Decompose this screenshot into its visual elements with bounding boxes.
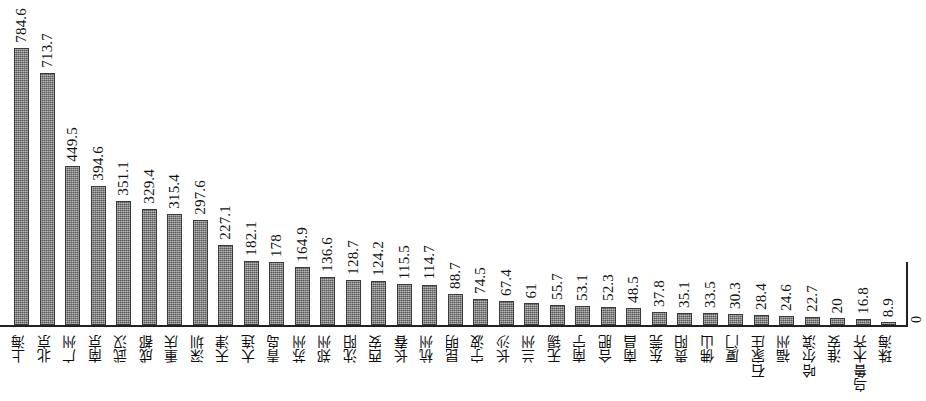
bar	[601, 307, 616, 325]
x-axis-category-label: 青岛	[268, 334, 294, 363]
y-axis-zero-label: 0	[910, 316, 924, 323]
bar-value-label: 8.9	[881, 298, 896, 317]
bar	[550, 305, 565, 325]
bar	[295, 267, 310, 325]
bar-value-label: 115.5	[397, 245, 412, 279]
x-axis-category-label: 杭州	[421, 334, 447, 363]
bar-value-label: 124.2	[371, 241, 386, 276]
bar-value-label: 88.7	[448, 262, 463, 289]
bar-value-label: 449.5	[65, 127, 80, 162]
x-axis-category-label: 福州	[778, 334, 804, 363]
x-axis-category-label: 南昌	[625, 334, 651, 363]
bar-value-label: 37.8	[652, 280, 667, 307]
x-axis-category-label: 乌鲁木齐	[855, 334, 881, 392]
bar-value-label: 33.5	[703, 281, 718, 308]
x-axis-category-label: 南宁	[574, 334, 600, 363]
bar	[397, 284, 412, 325]
x-axis-category-label: 武汉	[115, 334, 141, 363]
bar	[830, 318, 845, 325]
x-axis-line	[0, 325, 908, 327]
bar	[652, 312, 667, 325]
bar	[805, 317, 820, 325]
x-axis-category-label: 西安	[370, 334, 396, 363]
x-axis-category-label: 石家庄	[753, 334, 779, 378]
bar	[677, 313, 692, 325]
bar	[193, 220, 208, 325]
x-axis-category-label: 重庆	[166, 334, 192, 363]
x-axis-category-label: 广州	[64, 334, 90, 363]
bar	[371, 281, 386, 325]
plot-area: 784.6上海713.7北京449.5广州394.6南京351.1武汉329.4…	[0, 0, 926, 401]
bar	[14, 48, 29, 325]
x-axis-category-label: 郑州	[319, 334, 345, 363]
bar	[422, 285, 437, 325]
bar-value-label: 52.3	[601, 274, 616, 301]
x-axis-category-label: 厦门	[727, 334, 753, 363]
bar-value-label: 164.9	[295, 227, 310, 262]
x-axis-category-label: 兰州	[523, 334, 549, 363]
bar-value-label: 20	[830, 298, 845, 313]
bar	[65, 166, 80, 325]
x-axis-category-label: 长春	[396, 334, 422, 363]
x-axis-category-label: 苏州	[294, 334, 320, 363]
bar	[779, 316, 794, 325]
bar-value-label: 136.6	[320, 237, 335, 272]
bar-value-label: 114.7	[422, 245, 437, 279]
y-axis-line	[906, 262, 908, 327]
bar-value-label: 30.3	[728, 282, 743, 309]
x-axis-category-label: 上海	[13, 334, 39, 363]
x-axis-category-label: 哈尔滨	[804, 334, 830, 378]
bar	[167, 214, 182, 325]
x-axis-category-label: 东莞	[651, 334, 677, 363]
bar-value-label: 128.7	[346, 240, 361, 275]
x-axis-category-label: 大连	[243, 334, 269, 363]
bar	[524, 303, 539, 325]
bar-value-label: 182.1	[244, 221, 259, 256]
x-axis-category-label: 深圳	[192, 334, 218, 363]
x-axis-category-label: 昆明	[447, 334, 473, 363]
bar-value-label: 178	[269, 234, 284, 257]
x-axis-category-label: 淮安	[829, 334, 855, 363]
bar	[499, 301, 514, 325]
x-axis-category-label: 无锡	[549, 334, 575, 363]
x-axis-category-label: 沈阳	[345, 334, 371, 363]
bar	[116, 201, 131, 325]
x-axis-category-label: 宁波	[472, 334, 498, 363]
bar-value-label: 22.7	[805, 285, 820, 312]
bar	[703, 313, 718, 325]
bar-value-label: 53.1	[575, 274, 590, 301]
bar	[320, 277, 335, 325]
bar-value-label: 297.6	[193, 180, 208, 215]
bar	[473, 299, 488, 325]
bar-value-label: 67.4	[499, 269, 514, 296]
bar	[754, 315, 769, 325]
bar-value-label: 16.8	[856, 287, 871, 314]
bar	[448, 294, 463, 325]
x-axis-category-label: 贵阳	[676, 334, 702, 363]
x-axis-category-label: 成都	[141, 334, 167, 363]
x-axis-category-label: 天津	[217, 334, 243, 363]
bar-chart: 784.6上海713.7北京449.5广州394.6南京351.1武汉329.4…	[0, 0, 926, 401]
bar-value-label: 74.5	[473, 267, 488, 294]
bar-value-label: 713.7	[40, 33, 55, 68]
x-axis-category-label: 合肥	[600, 334, 626, 363]
bar-value-label: 28.4	[754, 283, 769, 310]
bar	[40, 73, 55, 325]
bar	[575, 306, 590, 325]
bar-value-label: 394.6	[91, 146, 106, 181]
bar-value-label: 24.6	[779, 284, 794, 311]
bar-value-label: 48.5	[626, 276, 641, 303]
bar	[728, 314, 743, 325]
bar	[244, 261, 259, 325]
bar	[142, 209, 157, 325]
bar-value-label: 55.7	[550, 273, 565, 300]
bar-value-label: 227.1	[218, 205, 233, 240]
x-axis-category-label: 珠海	[880, 334, 906, 363]
bar	[91, 186, 106, 325]
bar-value-label: 784.6	[14, 8, 29, 43]
bar	[346, 280, 361, 325]
x-axis-category-label: 佛山	[702, 334, 728, 363]
bar-value-label: 351.1	[116, 161, 131, 196]
bar-value-label: 329.4	[142, 169, 157, 204]
bar-value-label: 315.4	[167, 174, 182, 209]
